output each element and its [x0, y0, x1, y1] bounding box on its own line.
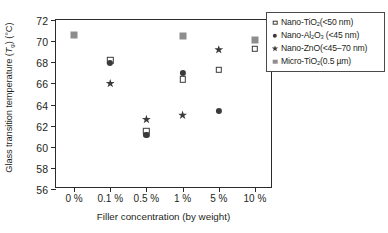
- data-point-star: [142, 115, 151, 124]
- legend-marker-open-square-icon: [270, 18, 280, 28]
- legend-row[interactable]: Micro-TiO2(0.5 µm): [270, 55, 381, 68]
- y-axis-tick-label: 64: [36, 100, 48, 112]
- legend-marker-star-icon: [270, 44, 280, 54]
- legend-row[interactable]: Nano-ZnO(<45–70 nm): [270, 42, 381, 55]
- y-axis-tick-label: 56: [36, 184, 48, 196]
- legend: Nano-TiO2(<50 nm)Nano-Al2O3 (<45 nm)Nano…: [266, 12, 385, 72]
- y-axis-tick: 62: [51, 126, 56, 127]
- legend-label: Nano-TiO2(<50 nm): [281, 18, 353, 27]
- data-point-grey-square: [251, 37, 258, 44]
- x-axis-tick-label: 0.1 %: [97, 193, 123, 204]
- y-axis-tick-label: 72: [36, 15, 48, 27]
- y-axis-tick-label: 60: [36, 142, 48, 154]
- chart-figure: Glass transition temperature (Tg) (°C) 5…: [0, 0, 388, 233]
- data-point-open-square: [179, 76, 185, 82]
- y-axis-tick: 58: [51, 168, 56, 169]
- data-point-star: [178, 111, 187, 120]
- x-axis-tick-label: 10 %: [244, 193, 267, 204]
- x-axis-tick: [146, 187, 147, 192]
- y-axis-tick: 70: [51, 41, 56, 42]
- legend-marker-grey-square-icon: [270, 57, 280, 67]
- data-point-filled-circle: [143, 132, 149, 138]
- y-axis-tick-label: 68: [36, 57, 48, 69]
- data-point-filled-circle: [216, 108, 222, 114]
- y-axis-title-tail: ): [4, 23, 14, 26]
- y-axis-tick-label: 62: [36, 121, 48, 133]
- legend-row[interactable]: Nano-TiO2(<50 nm): [270, 16, 381, 29]
- x-axis-tick-label: 0 %: [65, 193, 82, 204]
- y-axis-title-subscript: g: [8, 45, 15, 48]
- y-axis-tick: 56: [51, 189, 56, 190]
- legend-label: Nano-ZnO(<45–70 nm): [281, 44, 367, 53]
- x-axis-tick: [255, 187, 256, 192]
- plot-area: 565860626466687072 0 %0.1 %0.5 %1 %5 %10…: [55, 19, 272, 188]
- legend-label: Micro-TiO2(0.5 µm): [281, 57, 351, 66]
- y-axis-title-unit: °C: [4, 26, 14, 36]
- x-axis-tick: [183, 187, 184, 192]
- legend-row[interactable]: Nano-Al2O3 (<45 nm): [270, 29, 381, 42]
- y-axis-title: Glass transition temperature (Tg) (°C): [0, 0, 20, 196]
- y-axis-tick: 68: [51, 62, 56, 63]
- data-point-open-square: [216, 66, 222, 72]
- data-point-grey-square: [179, 32, 186, 39]
- x-axis-tick-label: 5 %: [210, 193, 227, 204]
- data-point-star: [106, 79, 115, 88]
- y-axis-tick-label: 58: [36, 163, 48, 175]
- legend-marker-filled-circle-icon: [270, 31, 280, 41]
- y-axis-tick: 64: [51, 105, 56, 106]
- y-axis-tick: 60: [51, 147, 56, 148]
- data-point-star: [214, 45, 223, 54]
- x-axis-tick-label: 1 %: [174, 193, 191, 204]
- y-axis-tick-label: 66: [36, 78, 48, 90]
- y-axis-title-lead: Glass transition temperature (: [4, 54, 14, 173]
- y-axis-title-mid: ) (: [4, 36, 14, 44]
- y-axis-tick: 66: [51, 83, 56, 84]
- legend-label: Nano-Al2O3 (<45 nm): [281, 31, 359, 40]
- data-point-grey-square: [71, 32, 78, 39]
- x-axis-tick-label: 0.5 %: [134, 193, 160, 204]
- y-axis-tick-label: 70: [36, 36, 48, 48]
- x-axis-tick: [74, 187, 75, 192]
- x-axis-tick: [219, 187, 220, 192]
- x-axis-tick: [110, 187, 111, 192]
- y-axis-tick: 72: [51, 20, 56, 21]
- data-point-filled-circle: [107, 60, 113, 66]
- x-axis-title: Filler concentration (by weight): [55, 211, 272, 222]
- data-point-open-square: [252, 45, 258, 51]
- y-axis-title-symbol: T: [4, 48, 14, 54]
